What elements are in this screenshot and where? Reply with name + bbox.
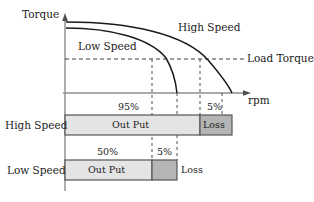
high-speed-output-label: Out Put xyxy=(112,120,149,130)
torque-speed-efficiency-figure: Torque rpm Load Torque High Speed Low Sp… xyxy=(0,0,314,202)
y-axis-arrow-icon xyxy=(62,13,68,21)
high-speed-curve-label: High Speed xyxy=(178,22,240,33)
low-speed-loss-label: Loss xyxy=(181,165,203,175)
low-speed-loss-percent: 5% xyxy=(157,147,172,157)
low-speed-row-label: Low Speed xyxy=(7,165,66,176)
load-torque-label: Load Torque xyxy=(247,53,314,64)
high-speed-loss-label: Loss xyxy=(203,120,225,130)
x-axis-label: rpm xyxy=(248,95,270,106)
high-speed-loss-percent: 5% xyxy=(207,102,222,112)
low-speed-output-percent: 50% xyxy=(97,147,118,157)
low-speed-output-label: Out Put xyxy=(88,165,125,175)
high-speed-row-label: High Speed xyxy=(5,120,67,131)
low-speed-loss-bar xyxy=(152,160,177,180)
low-speed-curve xyxy=(66,28,177,93)
high-speed-output-percent: 95% xyxy=(118,102,139,112)
y-axis-label: Torque xyxy=(22,9,59,20)
low-speed-curve-label: Low Speed xyxy=(78,41,137,52)
